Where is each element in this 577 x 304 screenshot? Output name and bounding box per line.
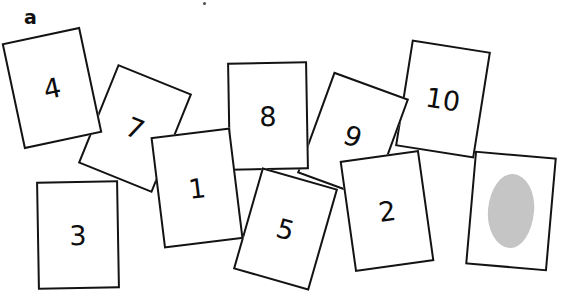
card-3[interactable]: 3 [36, 180, 120, 289]
card-number-label: 7 [122, 113, 148, 144]
card-5[interactable]: 5 [233, 167, 338, 291]
card-number-label: 2 [377, 196, 398, 225]
scan-speck-artifact [203, 2, 206, 5]
card-number-label: 1 [187, 174, 207, 203]
card-number-label: 8 [259, 102, 277, 129]
card-number-label: 4 [41, 73, 63, 103]
card-8[interactable]: 8 [227, 61, 309, 170]
card-number-label: 9 [340, 120, 365, 151]
card-number-label: 5 [274, 214, 298, 245]
cards-layer: 4371859102 [0, 0, 577, 304]
card-4[interactable]: 4 [2, 27, 103, 149]
card-2[interactable]: 2 [340, 150, 435, 272]
grey-oval-blob-icon [484, 172, 537, 251]
figure-canvas: a 4371859102 [0, 0, 577, 304]
card-1[interactable]: 1 [150, 128, 243, 249]
card-number-label: 3 [69, 221, 87, 248]
card-blob[interactable] [465, 151, 557, 272]
card-10[interactable]: 10 [395, 39, 491, 158]
card-number-label: 10 [424, 83, 462, 115]
